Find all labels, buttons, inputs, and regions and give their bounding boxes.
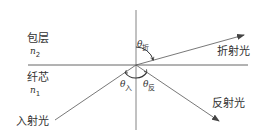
reflection-angle-label: θ反 — [143, 80, 155, 92]
reflection-angle-sub: 反 — [148, 84, 155, 92]
refraction-angle-label: θ折 — [137, 40, 149, 52]
reflected-ray — [136, 65, 219, 121]
incidence-angle-label: θ入 — [120, 80, 132, 92]
incidence-angle-sub: 入 — [125, 84, 132, 92]
reflected-ray-label: 反射光 — [212, 98, 245, 109]
incident-ray-label: 入射光 — [16, 116, 49, 127]
cladding-index-sub: 2 — [36, 51, 40, 59]
cladding-index: n2 — [30, 47, 40, 59]
cladding-label: 包层 — [27, 33, 49, 44]
refraction-angle-sub: 折 — [142, 44, 149, 52]
incident-ray — [55, 65, 136, 120]
reflection-angle-arc — [136, 72, 147, 78]
core-index-sub: 1 — [36, 90, 40, 98]
core-label: 纤芯 — [27, 72, 49, 83]
refracted-ray-label: 折射光 — [217, 46, 250, 57]
incidence-angle-arc — [125, 73, 136, 79]
core-index: n1 — [30, 86, 40, 98]
